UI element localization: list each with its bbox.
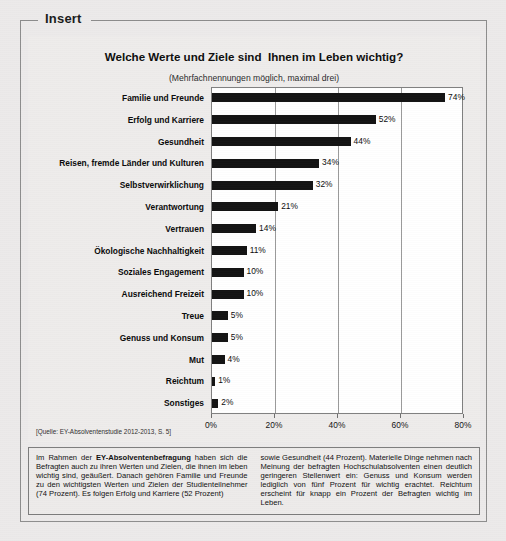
bar bbox=[212, 181, 313, 190]
bar bbox=[212, 137, 351, 146]
x-tick-label: 0% bbox=[205, 420, 217, 430]
category-label: Selbstverwirklichung bbox=[120, 180, 204, 190]
bar-value-label: 74% bbox=[448, 93, 465, 102]
bar-value-label: 52% bbox=[379, 115, 396, 124]
description-paragraph-right: sowie Gesundheit (44 Prozent). Materiell… bbox=[261, 453, 473, 510]
bar bbox=[212, 377, 215, 386]
bar-value-label: 5% bbox=[231, 333, 243, 342]
bar-value-label: 10% bbox=[247, 267, 264, 276]
bar bbox=[212, 202, 278, 211]
chart-card: Welche Werte und Ziele sind Ihnen im Leb… bbox=[28, 36, 480, 442]
description-text-box: Im Rahmen der EY-Absolventenbefragung ha… bbox=[28, 447, 480, 515]
bar-value-label: 11% bbox=[250, 246, 266, 255]
category-label: Mut bbox=[189, 355, 204, 365]
bar-value-label: 44% bbox=[354, 137, 371, 146]
bar-value-label: 2% bbox=[221, 398, 233, 407]
bar-value-label: 14% bbox=[259, 224, 276, 233]
bar bbox=[212, 268, 244, 277]
bar bbox=[212, 355, 225, 364]
bar-value-label: 34% bbox=[322, 158, 339, 167]
x-tick-label: 80% bbox=[455, 420, 472, 430]
study-name-emphasis: EY-Absolventenbefragung bbox=[96, 453, 191, 462]
category-label: Ausreichend Freizeit bbox=[122, 289, 204, 299]
bar bbox=[212, 159, 319, 168]
x-tick-label: 20% bbox=[266, 420, 283, 430]
bar bbox=[212, 399, 218, 408]
source-note: [Quelle: EY-Absolventenstudie 2012-2013,… bbox=[36, 428, 171, 435]
insert-frame-label: Insert bbox=[38, 11, 91, 26]
x-tick-mark bbox=[337, 414, 338, 418]
x-tick-mark bbox=[463, 414, 464, 418]
bar bbox=[212, 290, 244, 299]
bar bbox=[212, 224, 256, 233]
category-label: Vertrauen bbox=[165, 224, 204, 234]
category-label: Verantwortung bbox=[145, 202, 204, 212]
category-label: Erfolg und Karriere bbox=[128, 115, 204, 125]
category-label: Reichtum bbox=[166, 376, 204, 386]
x-tick-label: 60% bbox=[392, 420, 409, 430]
category-label: Familie und Freunde bbox=[122, 93, 204, 103]
category-label: Genuss und Konsum bbox=[120, 333, 204, 343]
category-label: Soziales Engagement bbox=[118, 267, 204, 277]
bar bbox=[212, 311, 228, 320]
bar-value-label: 1% bbox=[218, 376, 230, 385]
x-tick-mark bbox=[274, 414, 275, 418]
bar-value-label: 4% bbox=[228, 355, 240, 364]
bar-value-label: 5% bbox=[231, 311, 243, 320]
category-label: Treue bbox=[182, 311, 204, 321]
x-tick-mark bbox=[400, 414, 401, 418]
bar-value-label: 21% bbox=[281, 202, 298, 211]
bar-value-label: 32% bbox=[316, 180, 333, 189]
bar bbox=[212, 333, 228, 342]
x-tick-mark bbox=[211, 414, 212, 418]
bar bbox=[212, 246, 247, 255]
category-label: Sonstiges bbox=[164, 398, 204, 408]
bar bbox=[212, 115, 376, 124]
category-label: Ökologische Nachhaltigkeit bbox=[94, 246, 204, 256]
gridline-60 bbox=[401, 88, 402, 413]
description-paragraph-left: Im Rahmen der EY-Absolventenbefragung ha… bbox=[36, 453, 248, 510]
category-label: Gesundheit bbox=[158, 137, 204, 147]
bar bbox=[212, 93, 445, 102]
category-label: Reisen, fremde Länder und Kulturen bbox=[59, 158, 204, 168]
bar-chart-plot: Familie und FreundeErfolg und KarriereGe… bbox=[28, 36, 480, 442]
bar-value-label: 10% bbox=[247, 289, 264, 298]
x-tick-label: 40% bbox=[329, 420, 346, 430]
